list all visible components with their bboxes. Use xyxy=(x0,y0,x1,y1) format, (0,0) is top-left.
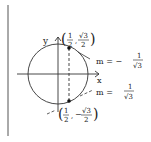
svg-text:2: 2 xyxy=(81,41,85,49)
slope-label-lower: m = 1 √3 xyxy=(96,83,134,101)
svg-text:√3: √3 xyxy=(133,62,142,70)
unit-circle-diagram: y x ( 1 2 , √3 2 ) ( 1 2 , − √3 2 ) m = … xyxy=(0,0,151,142)
svg-text:): ) xyxy=(93,106,98,122)
lower-point-label: ( 1 2 , − √3 2 ) xyxy=(58,106,98,124)
x-axis-label: x xyxy=(97,76,102,85)
tangent-lower-left xyxy=(47,110,56,114)
svg-text:√3: √3 xyxy=(124,93,133,101)
tangent-upper-leader xyxy=(78,52,90,59)
y-axis-label: y xyxy=(42,36,49,46)
svg-text:): ) xyxy=(90,31,95,47)
svg-text:1: 1 xyxy=(64,107,68,115)
svg-text:1: 1 xyxy=(68,32,72,40)
svg-text:−: − xyxy=(75,110,82,119)
point-lower xyxy=(67,99,71,103)
svg-text:,: , xyxy=(75,37,77,45)
upper-point-label: ( 1 2 , √3 2 ) xyxy=(61,31,95,49)
svg-text:√3: √3 xyxy=(82,107,91,115)
svg-text:m = −: m = − xyxy=(96,57,122,66)
svg-text:2: 2 xyxy=(84,116,88,124)
svg-text:(: ( xyxy=(58,106,63,122)
svg-text:2: 2 xyxy=(64,116,68,124)
svg-text:√3: √3 xyxy=(79,32,88,40)
svg-text:2: 2 xyxy=(68,41,72,49)
tangent-lower-leader xyxy=(80,90,93,96)
svg-text:1: 1 xyxy=(137,52,141,60)
slope-label-upper: m = − 1 √3 xyxy=(96,52,143,70)
svg-text:m =: m = xyxy=(96,88,113,97)
svg-text:,: , xyxy=(71,112,73,120)
svg-text:(: ( xyxy=(61,31,66,47)
svg-text:1: 1 xyxy=(128,83,132,91)
